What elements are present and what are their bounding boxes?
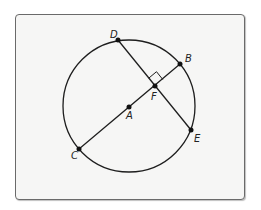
right-angle-marker	[149, 72, 163, 80]
points	[77, 38, 194, 152]
label-B: B	[185, 53, 192, 64]
label-E: E	[194, 133, 201, 144]
circle-diagram: D B F A C E	[0, 0, 261, 210]
point-F	[153, 84, 158, 89]
label-D: D	[110, 29, 118, 40]
label-A: A	[125, 110, 133, 121]
label-F: F	[151, 91, 157, 102]
point-A	[127, 105, 132, 110]
point-E	[189, 128, 194, 133]
point-B	[178, 62, 183, 67]
label-C: C	[71, 150, 78, 161]
labels: D B F A C E	[71, 29, 201, 161]
